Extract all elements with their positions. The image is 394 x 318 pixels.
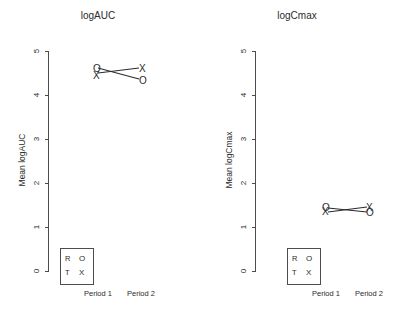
y-tick-label-0: 0 bbox=[239, 268, 248, 273]
x-tick-label-period2: Period 2 bbox=[355, 289, 383, 298]
series-line-t bbox=[98, 68, 139, 73]
x-tick-label-period1: Period 1 bbox=[312, 289, 340, 298]
legend-glyph-t: X bbox=[306, 268, 312, 277]
plot-svg-logcmax: 5 4 3 2 1 0 Mean logCmax O X X O R O T X… bbox=[197, 0, 394, 318]
y-tick-label-4: 4 bbox=[239, 92, 248, 97]
y-tick-label-3: 3 bbox=[239, 136, 248, 141]
y-tick-label-1: 1 bbox=[32, 224, 41, 229]
y-tick-label-5: 5 bbox=[239, 48, 248, 53]
legend-label-t: T bbox=[65, 268, 70, 277]
y-tick-label-2: 2 bbox=[239, 180, 248, 185]
y-axis-title: Mean logAUC bbox=[17, 134, 27, 187]
legend-label-t: T bbox=[292, 268, 297, 277]
panel-logauc: logAUC 5 4 3 2 1 0 Mean logAUC bbox=[0, 0, 197, 318]
legend-label-r: R bbox=[65, 254, 71, 263]
y-tick-label-3: 3 bbox=[32, 136, 41, 141]
x-tick-label-period2: Period 2 bbox=[127, 289, 155, 298]
datapoint-t-period1: X bbox=[322, 206, 329, 217]
series-line-r bbox=[98, 68, 139, 79]
y-tick-label-1: 1 bbox=[239, 224, 248, 229]
panel-logcmax: logCmax 5 4 3 2 1 0 Mean logCmax O X X O bbox=[197, 0, 394, 318]
y-tick-label-5: 5 bbox=[32, 48, 41, 53]
datapoint-r-period2: O bbox=[139, 75, 147, 86]
y-tick-label-0: 0 bbox=[32, 268, 41, 273]
datapoint-t-period1: X bbox=[93, 70, 100, 81]
legend-glyph-r: O bbox=[79, 254, 85, 263]
legend-glyph-t: X bbox=[79, 268, 85, 277]
datapoint-r-period2: O bbox=[366, 207, 374, 218]
legend-label-r: R bbox=[292, 254, 298, 263]
x-tick-label-period1: Period 1 bbox=[84, 289, 112, 298]
plot-svg-logauc: 5 4 3 2 1 0 Mean logAUC O X X O R O T X … bbox=[0, 0, 197, 318]
y-tick-label-4: 4 bbox=[32, 92, 41, 97]
y-axis-title: Mean logCmax bbox=[224, 131, 234, 189]
legend-glyph-r: O bbox=[306, 254, 312, 263]
datapoint-t-period2: X bbox=[139, 63, 146, 74]
y-tick-label-2: 2 bbox=[32, 180, 41, 185]
figure-canvas: logAUC 5 4 3 2 1 0 Mean logAUC bbox=[0, 0, 394, 318]
